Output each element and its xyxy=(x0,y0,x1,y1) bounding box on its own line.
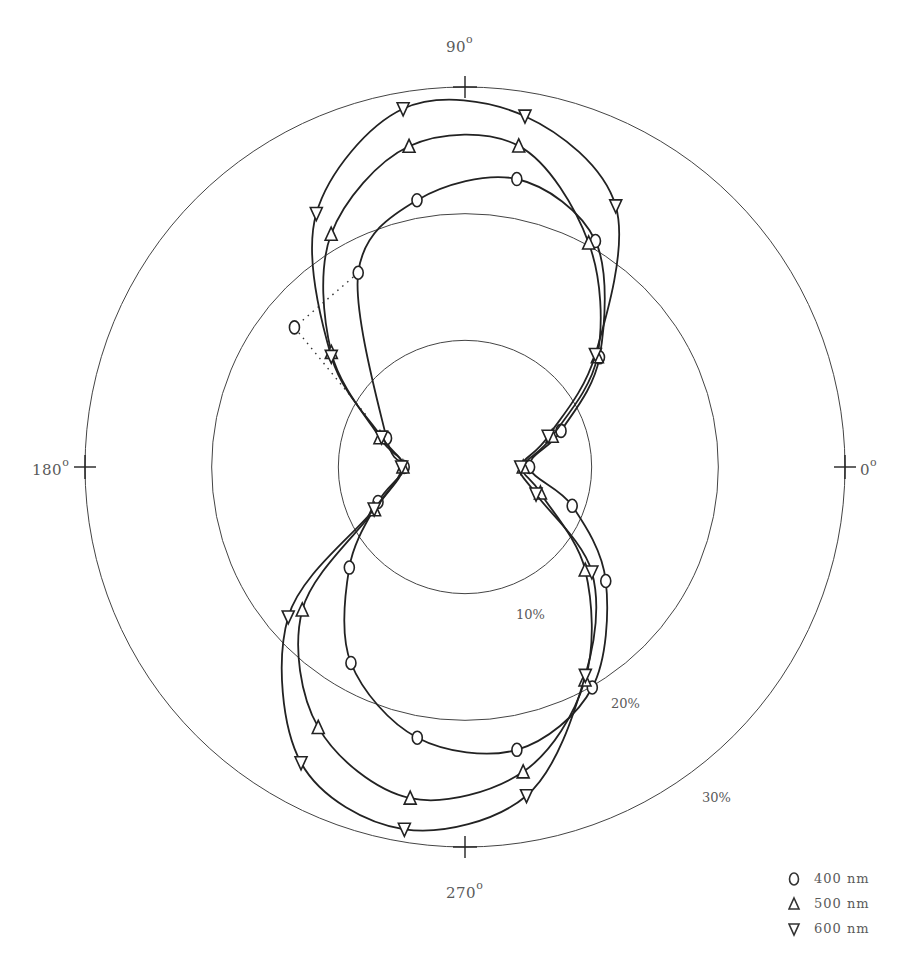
triangle-up-marker xyxy=(296,603,308,616)
triangle-up-marker xyxy=(312,720,324,733)
angle-label-0: 0o xyxy=(860,459,877,479)
ring-label-10: 10% xyxy=(516,607,545,622)
legend-label: 400 nm xyxy=(814,871,870,886)
triangle-up-marker xyxy=(325,227,337,240)
circle-marker xyxy=(412,731,422,744)
ring-20 xyxy=(212,214,719,721)
triangle-down-marker xyxy=(519,110,531,123)
triangle-down-marker xyxy=(295,757,307,770)
circle-marker xyxy=(512,173,522,186)
ring-label-20: 20% xyxy=(611,696,640,711)
series-500nm xyxy=(296,135,603,805)
circle-marker xyxy=(567,499,577,512)
series-curve xyxy=(298,135,601,801)
series-curve xyxy=(282,100,619,831)
angle-label-90: 90o xyxy=(446,36,473,56)
polar-plot xyxy=(0,0,906,962)
polar-grid xyxy=(74,76,856,858)
series-layer xyxy=(282,100,622,837)
triangle-up-marker xyxy=(517,765,529,778)
circle-marker xyxy=(412,194,422,207)
circle-marker xyxy=(601,574,611,587)
legend: 400 nm 500 nm 600 nm xyxy=(788,866,898,941)
circle-marker xyxy=(289,321,299,334)
series-600nm xyxy=(282,100,622,837)
triangle-up-marker-icon xyxy=(788,895,814,913)
legend-label: 500 nm xyxy=(814,896,870,911)
ring-30 xyxy=(85,87,845,847)
triangle-down-marker xyxy=(610,200,622,213)
triangle-up-marker xyxy=(513,139,525,152)
legend-item-500nm: 500 nm xyxy=(788,891,898,916)
triangle-down-marker-icon xyxy=(788,920,814,938)
series-400nm xyxy=(289,173,610,757)
legend-item-600nm: 600 nm xyxy=(788,916,898,941)
circle-marker-icon xyxy=(788,870,814,888)
angle-label-270: 270o xyxy=(446,882,483,902)
angle-label-180: 180o xyxy=(32,459,69,479)
circle-marker xyxy=(353,266,363,279)
triangle-down-marker xyxy=(310,208,322,221)
circle-marker xyxy=(344,561,354,574)
circle-marker xyxy=(556,424,566,437)
ring-10 xyxy=(338,340,591,593)
triangle-down-marker xyxy=(397,103,409,116)
triangle-down-marker xyxy=(282,611,294,624)
ring-label-30: 30% xyxy=(702,790,731,805)
series-curve xyxy=(344,177,607,754)
circle-marker xyxy=(346,656,356,669)
triangle-up-marker xyxy=(403,139,415,152)
legend-item-400nm: 400 nm xyxy=(788,866,898,891)
triangle-down-marker xyxy=(521,790,533,803)
circle-marker xyxy=(512,743,522,756)
legend-label: 600 nm xyxy=(814,921,870,936)
